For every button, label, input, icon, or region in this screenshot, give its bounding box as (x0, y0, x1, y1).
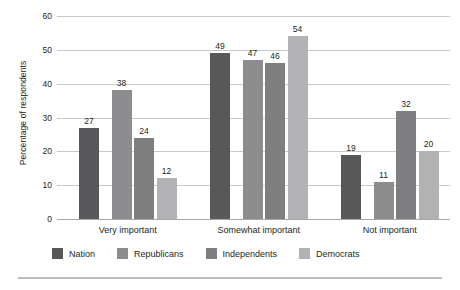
bar-value-label: 19 (346, 143, 355, 153)
legend-label: Nation (69, 249, 95, 259)
bar-rect (210, 53, 230, 219)
bar-nation-1[interactable]: 27 (79, 16, 99, 219)
legend-swatch-icon (117, 248, 128, 259)
bar-independents-2[interactable]: 46 (265, 16, 285, 219)
bar-rect (157, 178, 177, 219)
bar-value-label: 32 (401, 99, 410, 109)
bar-series-container: 273824124947465419113220 (57, 16, 450, 219)
bar-value-label: 27 (84, 116, 93, 126)
y-tick-label-60: 60 (43, 11, 52, 21)
bar-republicans-1[interactable]: 38 (112, 16, 132, 219)
bar-value-label: 12 (162, 166, 171, 176)
y-tick-label-0: 0 (47, 214, 52, 224)
bar-republicans-3[interactable]: 11 (374, 16, 394, 219)
y-tick-label-40: 40 (43, 79, 52, 89)
legend-swatch-icon (206, 248, 217, 259)
y-axis-title: Percentage of respondents (18, 33, 28, 193)
category-label-1: Very important (99, 225, 157, 235)
bar-rect (112, 90, 132, 219)
bar-value-label: 46 (270, 51, 279, 61)
category-label-2: Somewhat important (217, 225, 300, 235)
bar-democrats-1[interactable]: 12 (157, 16, 177, 219)
bar-nation-2[interactable]: 49 (210, 16, 230, 219)
bar-democrats-2[interactable]: 54 (288, 16, 308, 219)
legend-label: Democrats (316, 249, 360, 259)
bar-group-1: 27382412 (79, 16, 177, 219)
legend-label: Independents (223, 249, 278, 259)
bar-nation-3[interactable]: 19 (341, 16, 361, 219)
bar-chart-figure: Percentage of respondents 0102030405060 … (0, 0, 460, 290)
plot-area: 0102030405060 273824124947465419113220 (57, 16, 450, 219)
bar-value-label: 54 (293, 24, 302, 34)
legend-swatch-icon (52, 248, 63, 259)
chart-legend: NationRepublicansIndependentsDemocrats (52, 248, 382, 259)
y-tick-label-20: 20 (43, 146, 52, 156)
bar-rect (134, 138, 154, 219)
bar-rect (374, 182, 394, 219)
bar-value-label: 38 (117, 78, 126, 88)
bar-rect (288, 36, 308, 219)
bar-rect (265, 63, 285, 219)
bar-value-label: 24 (139, 126, 148, 136)
bar-rect (341, 155, 361, 219)
legend-label: Republicans (134, 249, 184, 259)
bottom-divider (18, 277, 442, 279)
gridline-0: 0 (57, 219, 450, 220)
legend-swatch-icon (299, 248, 310, 259)
bar-value-label: 47 (248, 48, 257, 58)
legend-item-independents[interactable]: Independents (206, 248, 278, 259)
legend-item-nation[interactable]: Nation (52, 248, 95, 259)
bar-republicans-2[interactable]: 47 (243, 16, 263, 219)
bar-rect (396, 111, 416, 219)
legend-item-democrats[interactable]: Democrats (299, 248, 360, 259)
bar-rect (243, 60, 263, 219)
bar-rect (419, 151, 439, 219)
y-tick-label-30: 30 (43, 113, 52, 123)
bar-group-3: 19113220 (341, 16, 439, 219)
category-label-3: Not important (363, 225, 417, 235)
y-tick-label-10: 10 (43, 180, 52, 190)
bar-independents-1[interactable]: 24 (134, 16, 154, 219)
bar-democrats-3[interactable]: 20 (419, 16, 439, 219)
bar-rect (79, 128, 99, 219)
bar-value-label: 49 (215, 41, 224, 51)
bar-independents-3[interactable]: 32 (396, 16, 416, 219)
bar-value-label: 11 (379, 170, 388, 180)
y-tick-label-50: 50 (43, 45, 52, 55)
legend-item-republicans[interactable]: Republicans (117, 248, 184, 259)
bar-group-2: 49474654 (210, 16, 308, 219)
bar-value-label: 20 (424, 139, 433, 149)
